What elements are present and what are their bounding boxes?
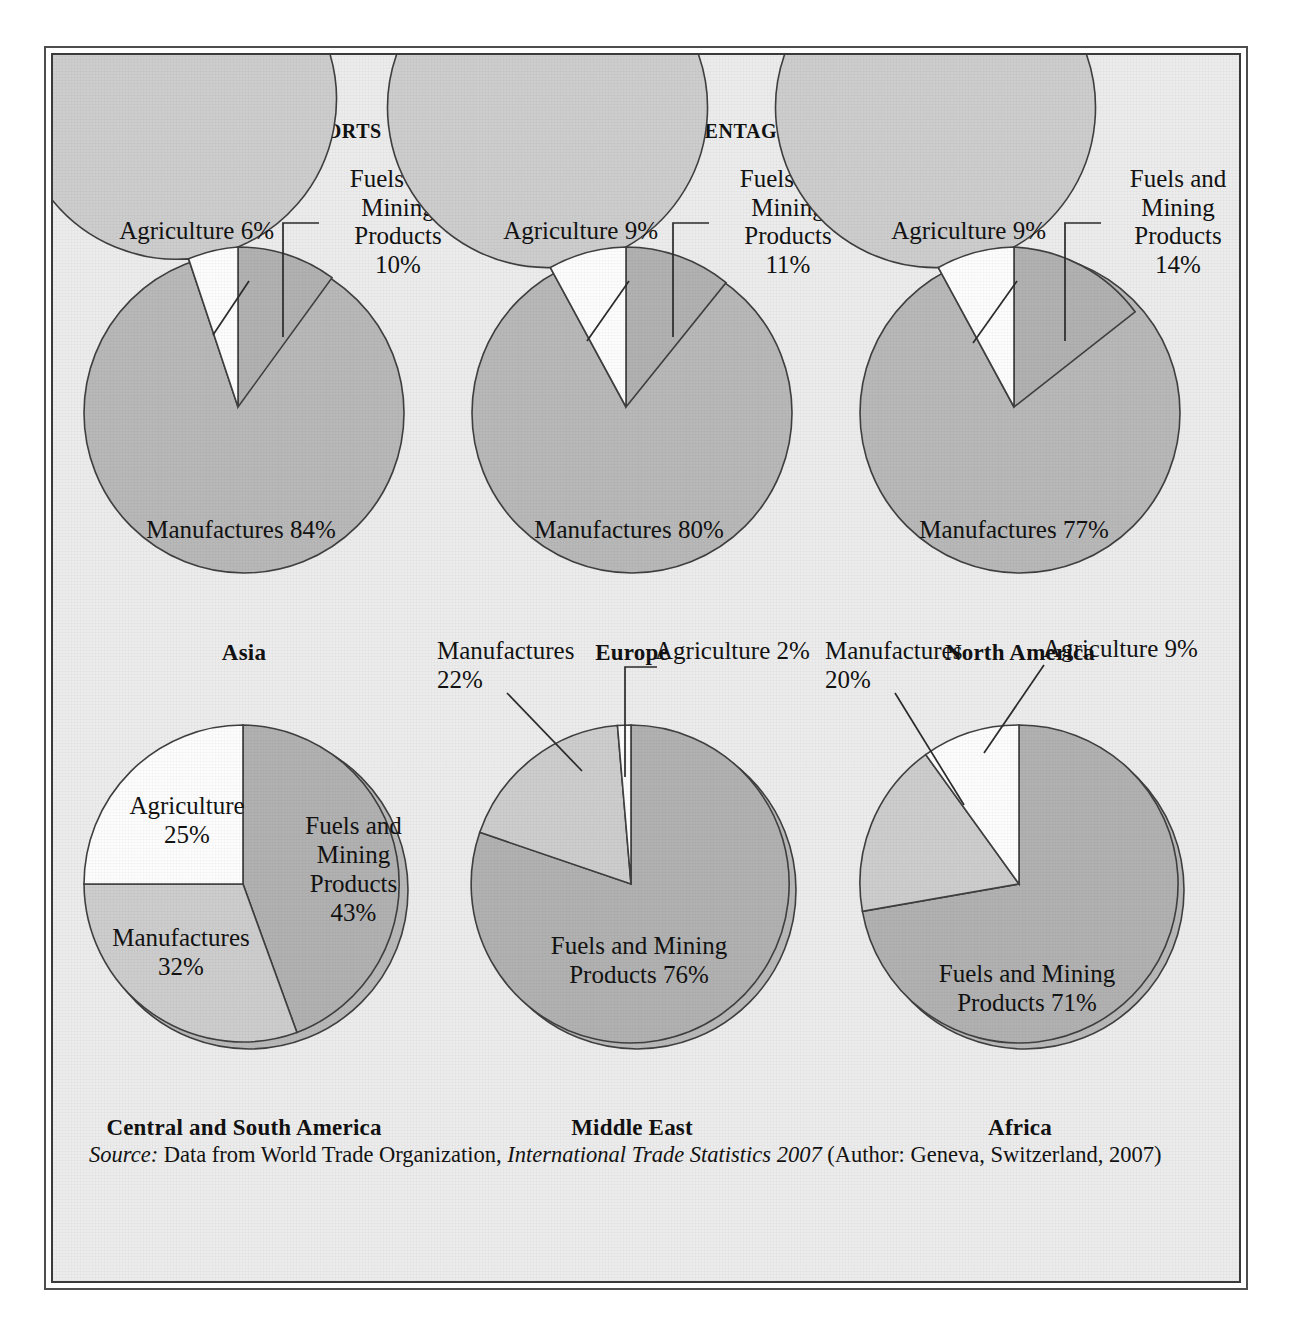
- callout-agriculture-north-america: Agriculture 9%: [841, 217, 1046, 246]
- callout-agriculture-asia: Agriculture 6%: [69, 217, 274, 246]
- callout-agriculture-europe: Agriculture 9%: [453, 217, 658, 246]
- pie-panel-africa: Manufactures 20% Agriculture 9% Fuels an…: [847, 701, 1237, 1171]
- caption-asia: Asia: [51, 640, 439, 666]
- pie-panel-europe: Agriculture 9% Fuels and Mining Products…: [459, 175, 849, 645]
- inlabel-fuels-middle-east: Fuels and Mining Products 76%: [494, 931, 784, 989]
- figure-page: Exports of World Regions, Percentages by…: [0, 0, 1290, 1335]
- pie-slices-middle-east: [471, 725, 789, 1043]
- inlabel-manufactures-asia: Manufactures 84%: [96, 515, 386, 544]
- pie-chart-africa: [847, 701, 1237, 1101]
- inlabel-manufactures-central-south-america: Manufactures 32%: [81, 923, 281, 981]
- source-note: Source: Data from World Trade Organizati…: [89, 1139, 1201, 1171]
- callout-agriculture-africa: Agriculture 9%: [1043, 635, 1241, 664]
- source-text-part1: Data from World Trade Organization,: [158, 1142, 507, 1167]
- callout-fuels-north-america: Fuels and Mining Products 14%: [1098, 165, 1241, 279]
- inlabel-fuels-africa: Fuels and Mining Products 71%: [882, 959, 1172, 1017]
- caption-africa: Africa: [825, 1115, 1215, 1141]
- caption-middle-east: Middle East: [437, 1115, 827, 1141]
- inlabel-manufactures-north-america: Manufactures 77%: [869, 515, 1159, 544]
- figure-inner-panel: Exports of World Regions, Percentages by…: [51, 53, 1241, 1283]
- callout-manufactures-middle-east: Manufactures 22%: [437, 637, 627, 694]
- source-label: Source:: [89, 1142, 158, 1167]
- pie-chart-middle-east: [459, 701, 849, 1101]
- callout-manufactures-africa: Manufactures 20%: [825, 637, 1015, 694]
- pie-panel-central-south-america: Agriculture 25% Fuels and Mining Product…: [71, 701, 461, 1171]
- inlabel-agriculture-central-south-america: Agriculture 25%: [97, 791, 277, 849]
- source-text-part2: (Author: Geneva, Switzerland, 2007): [822, 1142, 1162, 1167]
- pie-panel-asia: Agriculture 6% Fuels and Mining Products…: [71, 175, 461, 645]
- source-title-italic: International Trade Statistics 2007: [507, 1142, 821, 1167]
- caption-central-south-america: Central and South America: [51, 1115, 439, 1141]
- figure-outer-border: Exports of World Regions, Percentages by…: [44, 46, 1248, 1290]
- inlabel-fuels-central-south-america: Fuels and Mining Products 43%: [271, 811, 436, 927]
- inlabel-manufactures-europe: Manufactures 80%: [484, 515, 774, 544]
- pie-panel-north-america: Agriculture 9% Fuels and Mining Products…: [847, 175, 1237, 645]
- pie-panel-middle-east: Manufactures 22% Agriculture 2% Fuels an…: [459, 701, 849, 1171]
